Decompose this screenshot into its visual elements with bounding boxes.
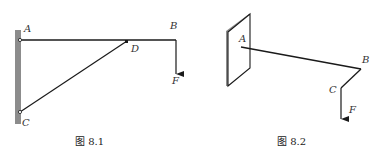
diagram-canvas: A B D C F 图 8.1 A B C F 图 8.2 xyxy=(0,0,375,156)
label-a: A xyxy=(238,33,246,44)
figure-8-2: A B C F 图 8.2 xyxy=(226,14,369,147)
wall xyxy=(15,30,21,124)
pin-c-icon xyxy=(18,110,21,113)
bar-bc xyxy=(341,69,361,88)
label-a: A xyxy=(23,23,31,34)
caption-fig-8-1: 图 8.1 xyxy=(75,136,104,147)
label-c: C xyxy=(22,117,30,128)
label-c: C xyxy=(329,84,337,95)
label-b: B xyxy=(361,54,369,65)
wall-plate xyxy=(228,14,250,86)
label-d: D xyxy=(130,43,139,54)
label-f: F xyxy=(348,104,357,115)
strut-cd xyxy=(20,41,127,112)
figure-8-1: A B D C F 图 8.1 xyxy=(15,20,180,147)
caption-fig-8-2: 图 8.2 xyxy=(277,136,306,147)
label-b: B xyxy=(169,20,177,31)
joint-d-icon xyxy=(125,40,128,43)
pin-a-icon xyxy=(18,38,21,41)
label-f: F xyxy=(171,75,180,86)
bar-ab xyxy=(241,47,361,69)
